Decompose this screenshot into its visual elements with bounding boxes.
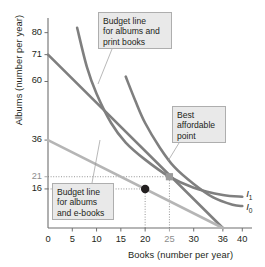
- x-axis-title: Books (number per year): [128, 250, 233, 260]
- annotation-line: for albums: [57, 197, 109, 207]
- annotation-best-affordable-point: Bestaffordablepoint: [172, 106, 226, 143]
- annotation-line: print books: [103, 37, 167, 47]
- y-tick-label: 36: [24, 134, 42, 144]
- x-tick-label: 20: [139, 234, 151, 244]
- curve-label-subscript: 1: [249, 194, 253, 201]
- annotation-leader-lines: [92, 49, 179, 183]
- x-tick-label: 36: [217, 234, 229, 244]
- curve-label-I1: I1: [246, 188, 252, 201]
- x-tick-label: 40: [236, 234, 248, 244]
- indifference-curve-figure: Albums (number per year) Books (number p…: [0, 0, 265, 267]
- curve-label-I0: I0: [246, 201, 252, 214]
- data-markers-layer: [141, 173, 173, 193]
- x-tick-label: 30: [188, 234, 200, 244]
- annotation-budget-line-e-books: Budget linefor albumsand e-books: [52, 183, 114, 220]
- annotation-budget-line-print-books: Budget linefor albums andprint books: [98, 12, 172, 49]
- x-tick-label: 5: [66, 234, 78, 244]
- annotation-line: Budget line: [57, 187, 109, 197]
- x-tick-label: 25: [163, 234, 175, 244]
- annotation-line: Best: [177, 110, 221, 120]
- x-tick-label: 10: [91, 234, 103, 244]
- annotation-line: affordable: [177, 120, 221, 130]
- x-tick-label: 15: [115, 234, 127, 244]
- annotation-line: and e-books: [57, 208, 109, 218]
- y-tick-label: 21: [24, 171, 42, 181]
- annotation-line: point: [177, 131, 221, 141]
- y-tick-label: 80: [24, 27, 42, 37]
- x-tick-label: 0: [42, 234, 54, 244]
- curve-label-subscript: 0: [249, 207, 253, 214]
- y-tick-label: 71: [24, 49, 42, 59]
- annotation-line: Budget line: [103, 16, 167, 26]
- y-tick-label: 16: [24, 183, 42, 193]
- y-tick-label: 60: [24, 75, 42, 85]
- annotation-line: for albums and: [103, 26, 167, 36]
- y-axis-title: Albums (number per year): [14, 5, 30, 135]
